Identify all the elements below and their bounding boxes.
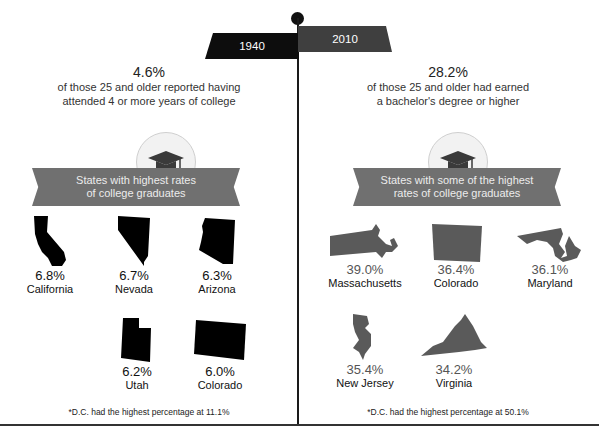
state-maryland: 36.1% Maryland	[505, 222, 595, 290]
massachusetts-map-icon	[328, 222, 402, 262]
state-name: Massachusetts	[320, 277, 410, 290]
ribbon-line1: States with some of the highest	[353, 174, 561, 187]
footnote-1940: *D.C. had the highest percentage at 11.1…	[0, 407, 298, 417]
colorado-map-icon	[192, 314, 248, 364]
utah-map-icon	[117, 314, 157, 364]
state-name: Colorado	[175, 379, 265, 392]
headline-desc-line2: a bachelor's degree or higher	[299, 94, 597, 108]
headline-1940: 4.6% of those 25 and older reported havi…	[0, 64, 298, 108]
state-value: 6.7%	[89, 268, 179, 283]
state-value: 6.3%	[172, 268, 262, 283]
state-value: 6.0%	[175, 364, 265, 379]
headline-desc-line1: of those 25 and older reported having	[0, 80, 298, 94]
headline-desc-line2: attended 4 or more years of college	[0, 94, 298, 108]
state-value: 35.4%	[320, 362, 410, 377]
state-california: 6.8% California	[5, 214, 95, 296]
state-value: 36.1%	[505, 262, 595, 277]
state-name: Arizona	[172, 283, 262, 296]
headline-percent: 4.6%	[0, 64, 298, 80]
state-new-jersey: 35.4% New Jersey	[320, 312, 410, 390]
bottom-rule	[0, 424, 599, 426]
state-utah: 6.2% Utah	[92, 314, 182, 392]
ribbon-line2: rates of college graduates	[353, 187, 561, 200]
ribbon-banner-1940: States with highest rates of college gra…	[32, 168, 240, 206]
state-value: 34.2%	[409, 362, 499, 377]
footnote-2010: *D.C. had the highest percentage at 50.1…	[299, 407, 597, 417]
new-jersey-map-icon	[345, 312, 385, 362]
state-value: 6.8%	[5, 268, 95, 283]
state-name: California	[5, 283, 95, 296]
colorado-map-icon	[428, 222, 484, 262]
state-nevada: 6.7% Nevada	[89, 214, 179, 296]
headline-desc-line1: of those 25 and older had earned	[299, 80, 597, 94]
state-name: Utah	[92, 379, 182, 392]
state-colorado: 6.0% Colorado	[175, 314, 265, 392]
headline-2010: 28.2% of those 25 and older had earned a…	[299, 64, 597, 108]
state-massachusetts: 39.0% Massachusetts	[320, 222, 410, 290]
state-name: New Jersey	[320, 377, 410, 390]
state-name: Nevada	[89, 283, 179, 296]
state-name: Colorado	[411, 277, 501, 290]
state-arizona: 6.3% Arizona	[172, 214, 262, 296]
panel-2010: 28.2% of those 25 and older had earned a…	[299, 0, 597, 424]
nevada-map-icon	[114, 214, 154, 268]
state-name: Virginia	[409, 377, 499, 390]
headline-percent: 28.2%	[299, 64, 597, 80]
state-colorado-2010: 36.4% Colorado	[411, 222, 501, 290]
state-virginia: 34.2% Virginia	[409, 312, 499, 390]
state-value: 39.0%	[320, 262, 410, 277]
ribbon-banner-2010: States with some of the highest rates of…	[353, 168, 561, 206]
arizona-map-icon	[195, 214, 239, 268]
virginia-map-icon	[419, 312, 489, 362]
state-name: Maryland	[505, 277, 595, 290]
ribbon-line1: States with highest rates	[32, 174, 240, 187]
ribbon-line2: of college graduates	[32, 187, 240, 200]
california-map-icon	[30, 214, 70, 268]
maryland-map-icon	[515, 222, 585, 262]
state-value: 36.4%	[411, 262, 501, 277]
state-value: 6.2%	[92, 364, 182, 379]
panel-1940: 4.6% of those 25 and older reported havi…	[0, 0, 298, 424]
